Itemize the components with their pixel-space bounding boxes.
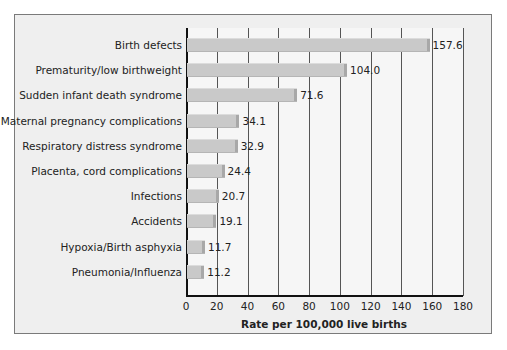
x-tick-label: 0 (183, 300, 190, 312)
category-label: Birth defects (115, 39, 182, 51)
bar (187, 38, 430, 52)
category-label: Sudden infant death syndrome (19, 89, 182, 101)
x-tick-label: 60 (272, 300, 285, 312)
x-tick-label: 120 (361, 300, 381, 312)
bar (187, 114, 239, 128)
category-label: Pneumonia/Influenza (72, 266, 182, 278)
value-label: 11.2 (207, 266, 230, 278)
bar-end-cap (202, 241, 205, 253)
bar-end-cap (222, 165, 225, 177)
x-tick-label: 100 (330, 300, 350, 312)
bar-end-cap (427, 39, 430, 51)
x-tick-label: 20 (210, 300, 223, 312)
bar (187, 240, 205, 254)
bar (187, 164, 225, 178)
bar-end-cap (344, 64, 347, 76)
value-label: 34.1 (242, 115, 265, 127)
value-label: 104.0 (350, 64, 380, 76)
bar-end-cap (201, 266, 204, 278)
x-tick-label: 160 (422, 300, 442, 312)
value-label: 20.7 (222, 190, 245, 202)
x-tick-label: 140 (391, 300, 411, 312)
value-label: 32.9 (241, 140, 264, 152)
bar (187, 189, 219, 203)
bar (187, 139, 238, 153)
gridline (463, 28, 464, 296)
x-tick-label: 180 (453, 300, 473, 312)
gridline (401, 28, 402, 296)
bar (187, 214, 216, 228)
bar (187, 265, 204, 279)
bar-end-cap (213, 215, 216, 227)
gridline (432, 28, 433, 296)
category-label: Accidents (131, 215, 182, 227)
value-label: 24.4 (228, 165, 251, 177)
bar-end-cap (236, 115, 239, 127)
bar-end-cap (216, 190, 219, 202)
bar-end-cap (294, 89, 297, 101)
x-axis (186, 295, 463, 297)
category-label: Maternal pregnancy complications (1, 115, 182, 127)
value-label: 11.7 (208, 241, 231, 253)
bar (187, 63, 347, 77)
bar (187, 88, 297, 102)
category-label: Placenta, cord complications (31, 165, 182, 177)
category-label: Respiratory distress syndrome (22, 140, 182, 152)
value-label: 71.6 (300, 89, 323, 101)
category-label: Prematurity/low birthweight (35, 64, 182, 76)
category-label: Hypoxia/Birth asphyxia (60, 241, 182, 253)
value-label: 19.1 (219, 215, 242, 227)
x-axis-label: Rate per 100,000 live births (241, 318, 407, 330)
value-label: 157.6 (433, 39, 463, 51)
category-label: Infections (131, 190, 182, 202)
bar-end-cap (235, 140, 238, 152)
x-tick-label: 80 (302, 300, 315, 312)
x-tick-label: 40 (241, 300, 254, 312)
